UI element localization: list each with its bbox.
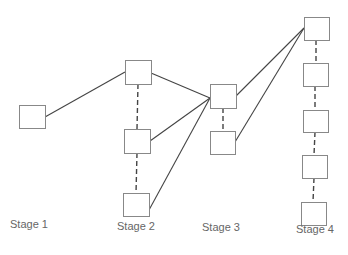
- solid-edge: [45, 72, 125, 117]
- node-box-s2a: [126, 61, 152, 85]
- node-box-s1a: [20, 106, 46, 129]
- node-box-s2c: [124, 194, 150, 217]
- stage-label-3: Stage 3: [202, 221, 240, 233]
- dashed-edge: [314, 132, 315, 155]
- node-box-s2b: [125, 130, 151, 154]
- solid-edge: [151, 73, 210, 98]
- stage-label-4: Stage 4: [296, 223, 334, 235]
- dashed-edge: [313, 178, 314, 202]
- solid-edge: [150, 98, 210, 141]
- node-box-s4b: [304, 64, 329, 87]
- dashed-edge: [136, 153, 137, 193]
- stage-diagram: Stage 1 Stage 2 Stage 3 Stage 4: [0, 0, 348, 255]
- node-box-s4d: [303, 156, 328, 179]
- diagram-canvas: [0, 0, 348, 255]
- solid-edge: [236, 28, 304, 96]
- solid-edge: [235, 28, 304, 142]
- stage-label-1: Stage 1: [10, 218, 48, 230]
- stage-label-2: Stage 2: [117, 220, 155, 232]
- node-box-s4a: [305, 18, 330, 41]
- node-box-s3a: [211, 85, 237, 109]
- solid-edge: [149, 98, 210, 210]
- node-box-s4c: [304, 111, 329, 133]
- node-box-s3b: [211, 132, 236, 155]
- dashed-edge: [137, 84, 138, 129]
